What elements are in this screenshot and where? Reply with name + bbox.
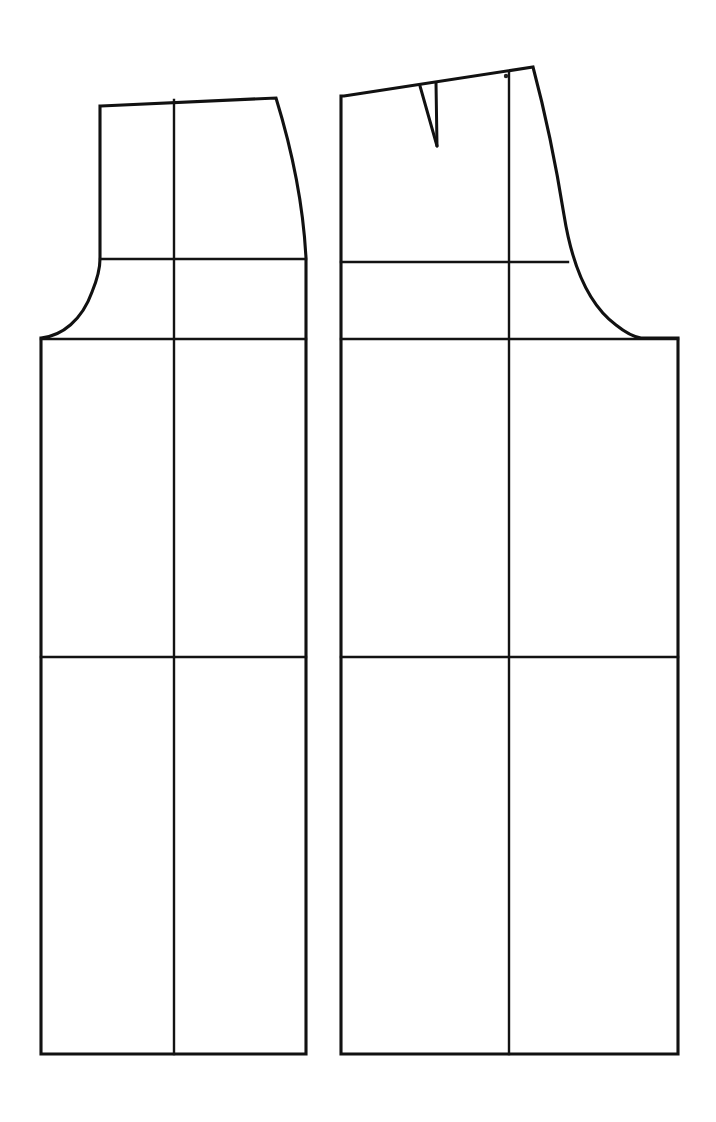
balance-dot-mark: [504, 74, 508, 78]
shoulder-dart-left-leg: [420, 86, 437, 146]
back-bodice-block: [341, 67, 678, 1054]
pattern-drafting-sheet: [0, 0, 716, 1122]
shoulder-dart-right-leg: [436, 83, 437, 146]
front-bodice-block: [41, 98, 306, 1054]
pattern-drawing-canvas: [0, 0, 716, 1122]
